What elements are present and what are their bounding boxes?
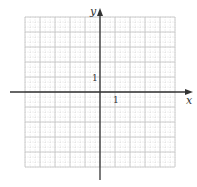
x-tick-label: 1: [113, 95, 119, 105]
y-tick-label: 1: [92, 73, 98, 83]
y-axis-label: y: [89, 5, 97, 18]
y-axis: [97, 8, 103, 180]
y-axis-arrow-icon: [97, 8, 103, 16]
coordinate-plane: y x 1 1: [0, 0, 197, 187]
x-axis: [10, 89, 193, 95]
x-axis-label: x: [186, 94, 193, 107]
